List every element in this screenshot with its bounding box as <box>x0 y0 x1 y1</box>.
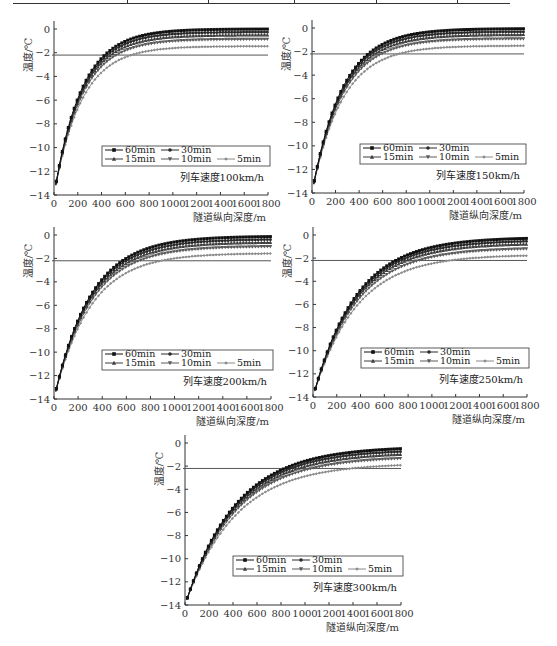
line-chart: 0−2−4−6−8−10−12−140200400600800100012001… <box>0 0 557 646</box>
x-tick-label: 800 <box>271 608 290 619</box>
svg-text:15min: 15min <box>256 563 286 574</box>
svg-text:5min: 5min <box>368 563 392 574</box>
x-tick-label: 600 <box>247 608 266 619</box>
y-tick-label: −12 <box>160 576 181 587</box>
x-tick-label: 1600 <box>364 608 389 619</box>
y-tick-label: −2 <box>166 461 181 472</box>
x-tick-label: 1200 <box>316 608 341 619</box>
y-tick-label: −14 <box>160 600 181 611</box>
y-tick-label: 0 <box>175 438 181 449</box>
x-tick-label: 200 <box>199 608 218 619</box>
y-tick-label: −8 <box>166 530 181 541</box>
x-tick-label: 0 <box>182 608 188 619</box>
x-tick-label: 1000 <box>292 608 317 619</box>
series-30min <box>186 450 402 599</box>
y-tick-label: −6 <box>166 507 181 518</box>
x-tick-label: 1400 <box>340 608 365 619</box>
legend: 60min30min15min10min5min <box>233 554 403 576</box>
chart-panel-300kmh: 0−2−4−6−8−10−12−140200400600800100012001… <box>0 0 557 646</box>
chart-caption-speed: 列车速度300km/h <box>313 581 398 593</box>
x-tick-label: 400 <box>223 608 242 619</box>
svg-text:10min: 10min <box>312 563 342 574</box>
x-tick-label: 1800 <box>388 608 413 619</box>
y-axis-label: 温度/℃ <box>153 452 165 487</box>
y-tick-label: −4 <box>166 484 181 495</box>
y-tick-label: −10 <box>160 553 181 564</box>
x-axis-label: 隧道纵向深度/m <box>326 621 399 633</box>
series-15min <box>186 452 403 599</box>
